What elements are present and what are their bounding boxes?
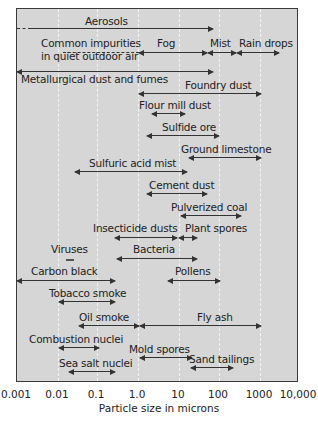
range-aerosols: [31, 28, 213, 29]
label-flour-mill-dust: Flour mill dust: [139, 99, 211, 111]
label-insecticide-dusts: Insecticide dusts: [93, 222, 178, 234]
label-sulfide-ore: Sulfide ore: [162, 121, 216, 133]
range-aerosols-dashed: [17, 28, 31, 29]
x-tick: 0.1: [88, 388, 105, 400]
range-plant-spores: [179, 237, 197, 238]
range-mist: [208, 52, 236, 53]
x-tick: 10: [171, 388, 184, 400]
label-sulfuric-acid-mist: Sulfuric acid mist: [89, 157, 176, 169]
range-mold-spores: [140, 357, 192, 358]
label-aerosols: Aerosols: [85, 15, 128, 27]
x-tick: 0.001: [1, 388, 31, 400]
chart-plot-area: Aerosols Common impurities in quiet outd…: [16, 8, 298, 382]
x-tick: 100: [208, 388, 228, 400]
label-pollens: Pollens: [175, 265, 210, 277]
label-sea-salt-nuclei: Sea salt nuclei: [59, 357, 133, 369]
label-common-impurities: Common impurities: [41, 37, 141, 49]
x-axis-label: Particle size in microns: [0, 402, 318, 414]
range-sulfide-ore: [147, 135, 219, 136]
label-carbon-black: Carbon black: [31, 265, 98, 277]
x-tick: 0.01: [45, 388, 68, 400]
label-bacteria: Bacteria: [133, 243, 175, 255]
range-insecticide-dusts: [115, 237, 177, 238]
label-pulverized-coal: Pulverized coal: [171, 201, 247, 213]
range-flour-mill-dust: [152, 113, 185, 114]
x-tick: 10,000: [280, 388, 317, 400]
label-rain-drops: Rain drops: [239, 37, 293, 49]
range-pulverized-coal: [181, 215, 241, 216]
range-carbon-black: [17, 280, 115, 281]
range-foundry-dust: [139, 93, 261, 94]
range-viruses: [66, 259, 74, 261]
label-oil-smoke: Oil smoke: [79, 311, 129, 323]
range-rain-drops: [237, 52, 279, 53]
x-tick: 1.0: [129, 388, 146, 400]
x-tick: 1000: [246, 388, 273, 400]
label-ground-limestone: Ground limestone: [181, 143, 271, 155]
range-sea-salt-nuclei: [69, 371, 115, 372]
label-cement-dust: Cement dust: [149, 179, 214, 191]
range-common-impurities: [63, 52, 139, 53]
range-sand-tailings: [191, 367, 233, 368]
label-sand-tailings: Sand tailings: [189, 353, 254, 365]
range-pollens: [168, 280, 220, 281]
range-oil-smoke: [79, 325, 139, 326]
range-metallurgical: [17, 71, 213, 72]
range-cement-dust: [147, 193, 207, 194]
range-bacteria: [117, 258, 197, 259]
label-mist: Mist: [210, 37, 231, 49]
label-viruses: Viruses: [51, 243, 88, 255]
range-ground-limestone: [189, 157, 261, 158]
label-fog: Fog: [157, 37, 175, 49]
range-tobacco-smoke: [59, 301, 115, 302]
label-tobacco-smoke: Tobacco smoke: [49, 287, 126, 299]
label-metallurgical: Metallurgical dust and fumes: [21, 73, 168, 85]
range-fly-ash: [140, 325, 261, 326]
label-plant-spores: Plant spores: [185, 222, 247, 234]
label-mold-spores: Mold spores: [129, 343, 190, 355]
range-combustion-nuclei: [59, 347, 99, 348]
gridline: [58, 9, 59, 381]
label-foundry-dust: Foundry dust: [185, 79, 251, 91]
range-sulfuric-acid-mist: [75, 171, 187, 172]
range-fog: [139, 52, 207, 53]
label-fly-ash: Fly ash: [197, 311, 233, 323]
label-combustion-nuclei: Combustion nuclei: [29, 333, 123, 345]
